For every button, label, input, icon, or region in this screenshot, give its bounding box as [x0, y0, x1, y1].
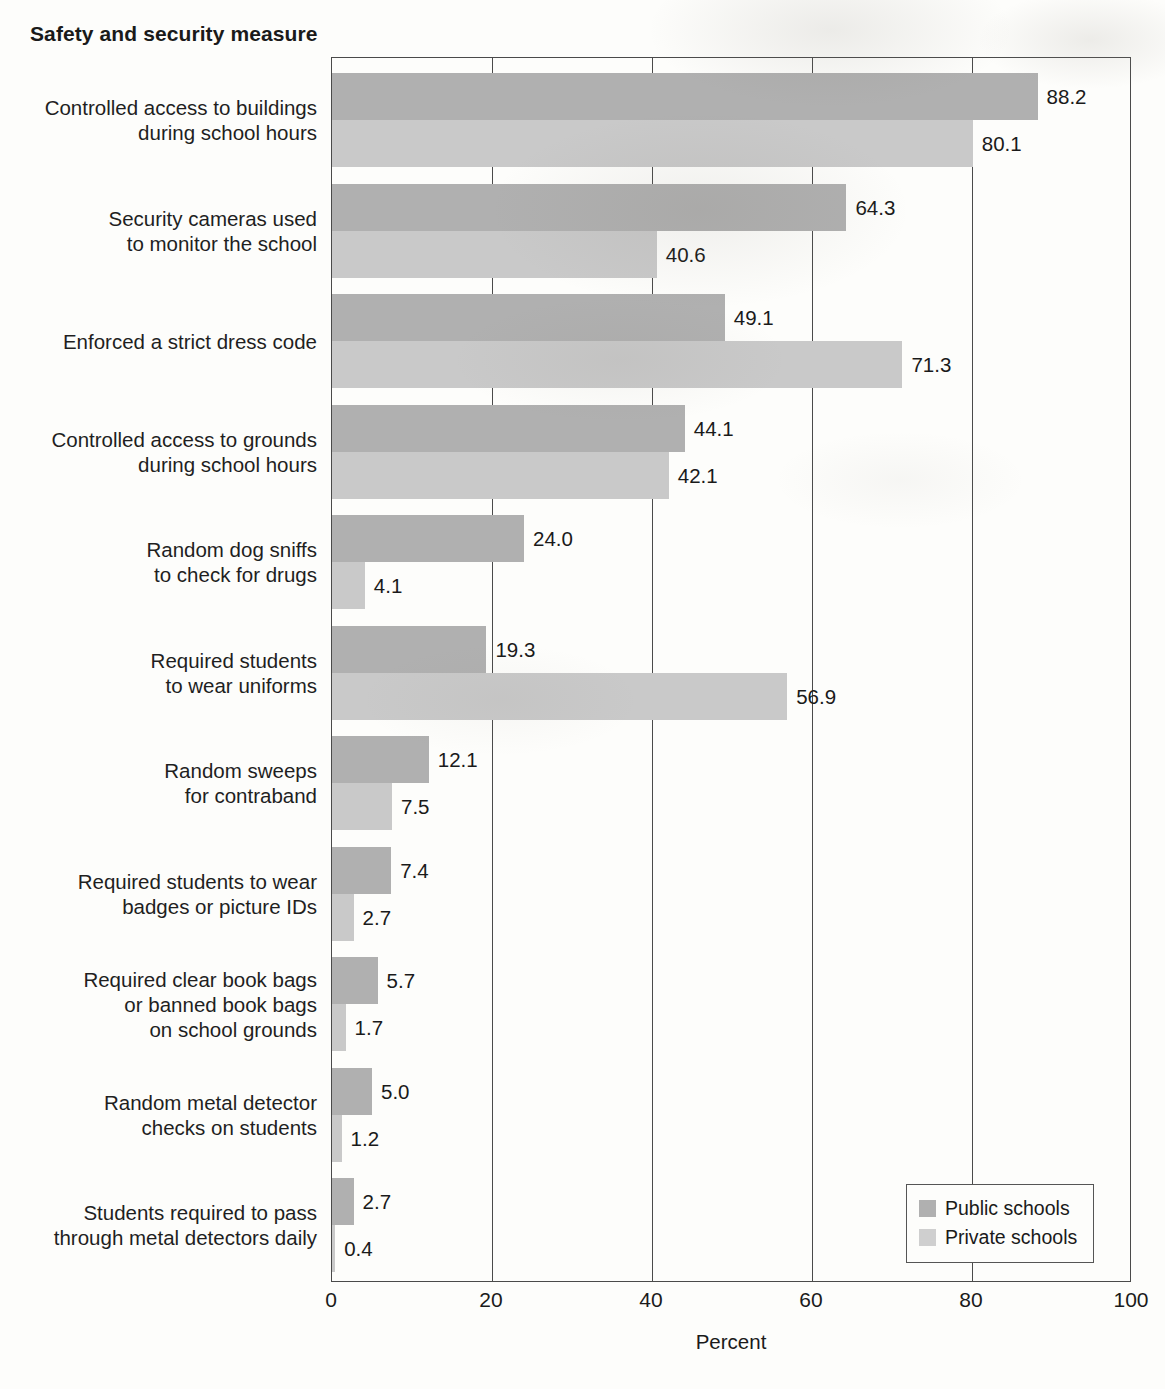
bar-value-label: 24.0	[524, 515, 573, 562]
bar-private	[332, 894, 354, 941]
bar-private	[332, 562, 365, 609]
category-label: Controlled access to grounds during scho…	[0, 427, 331, 477]
bar-group: Controlled access to grounds during scho…	[0, 405, 1165, 499]
legend-label-private: Private schools	[945, 1226, 1077, 1249]
bar-value-label: 56.9	[787, 673, 836, 720]
x-tick-20: 20	[479, 1288, 502, 1312]
bar-public	[332, 73, 1038, 120]
page-title: Safety and security measure	[30, 22, 318, 46]
bar-value-label: 7.5	[392, 783, 430, 830]
bar-group: Security cameras used to monitor the sch…	[0, 184, 1165, 278]
bar-value-label: 80.1	[973, 120, 1022, 167]
legend-swatch-private-icon	[919, 1229, 936, 1246]
bar-group: Controlled access to buildings during sc…	[0, 73, 1165, 167]
bar-value-label: 42.1	[669, 452, 718, 499]
chart-legend: Public schools Private schools	[906, 1184, 1094, 1263]
bar-value-label: 71.3	[902, 341, 951, 388]
bar-public	[332, 626, 486, 673]
bar-value-label: 1.2	[342, 1115, 380, 1162]
bar-value-label: 12.1	[429, 736, 478, 783]
bar-group: Required clear book bags or banned book …	[0, 957, 1165, 1051]
category-label: Random dog sniffs to check for drugs	[0, 537, 331, 587]
legend-item-public: Public schools	[919, 1194, 1083, 1223]
bar-private	[332, 231, 657, 278]
bar-public	[332, 847, 391, 894]
bar-value-label: 4.1	[365, 562, 403, 609]
legend-label-public: Public schools	[945, 1197, 1070, 1220]
x-tick-40: 40	[639, 1288, 662, 1312]
bar-value-label: 0.4	[335, 1225, 373, 1272]
bar-public	[332, 405, 685, 452]
category-label: Controlled access to buildings during sc…	[0, 95, 331, 145]
legend-item-private: Private schools	[919, 1223, 1083, 1252]
x-tick-0: 0	[325, 1288, 337, 1312]
bar-value-label: 40.6	[657, 231, 706, 278]
bar-group: Enforced a strict dress code49.171.3	[0, 294, 1165, 388]
x-tick-80: 80	[959, 1288, 982, 1312]
bar-group: Random metal detector checks on students…	[0, 1068, 1165, 1162]
bar-value-label: 44.1	[685, 405, 734, 452]
bar-value-label: 64.3	[846, 184, 895, 231]
bar-public	[332, 957, 378, 1004]
bar-private	[332, 120, 973, 167]
bar-value-label: 49.1	[725, 294, 774, 341]
bar-value-label: 2.7	[354, 894, 392, 941]
bar-public	[332, 1068, 372, 1115]
category-label: Students required to pass through metal …	[0, 1200, 331, 1250]
bar-private	[332, 783, 392, 830]
bar-value-label: 2.7	[354, 1178, 392, 1225]
bar-public	[332, 184, 846, 231]
bar-private	[332, 1115, 342, 1162]
bar-value-label: 88.2	[1038, 73, 1087, 120]
x-tick-100: 100	[1113, 1288, 1148, 1312]
bar-public	[332, 294, 725, 341]
bar-public	[332, 1178, 354, 1225]
bar-value-label: 7.4	[391, 847, 429, 894]
bar-private	[332, 673, 787, 720]
category-label: Required students to wear badges or pict…	[0, 869, 331, 919]
category-label: Required clear book bags or banned book …	[0, 967, 331, 1042]
bar-private	[332, 452, 669, 499]
bar-group: Random dog sniffs to check for drugs24.0…	[0, 515, 1165, 609]
x-axis-title: Percent	[331, 1330, 1131, 1354]
x-tick-60: 60	[799, 1288, 822, 1312]
bar-group: Required students to wear uniforms19.356…	[0, 626, 1165, 720]
category-label: Required students to wear uniforms	[0, 648, 331, 698]
bar-private	[332, 1004, 346, 1051]
category-label: Security cameras used to monitor the sch…	[0, 206, 331, 256]
bar-rows-container: Controlled access to buildings during sc…	[0, 0, 1165, 1389]
category-label: Enforced a strict dress code	[0, 329, 331, 354]
legend-swatch-public-icon	[919, 1200, 936, 1217]
category-label: Random metal detector checks on students	[0, 1090, 331, 1140]
bar-value-label: 19.3	[486, 626, 535, 673]
bar-value-label: 5.7	[378, 957, 416, 1004]
bar-group: Random sweeps for contraband12.17.5	[0, 736, 1165, 830]
bar-public	[332, 736, 429, 783]
bar-group: Required students to wear badges or pict…	[0, 847, 1165, 941]
bar-value-label: 1.7	[346, 1004, 384, 1051]
category-label: Random sweeps for contraband	[0, 758, 331, 808]
bar-private	[332, 341, 902, 388]
bar-public	[332, 515, 524, 562]
bar-value-label: 5.0	[372, 1068, 410, 1115]
